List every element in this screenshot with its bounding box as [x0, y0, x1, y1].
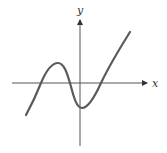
x-axis-label: x — [152, 77, 159, 90]
function-graph: y x — [0, 0, 167, 153]
y-axis-label: y — [76, 4, 84, 17]
function-curve — [26, 32, 130, 115]
